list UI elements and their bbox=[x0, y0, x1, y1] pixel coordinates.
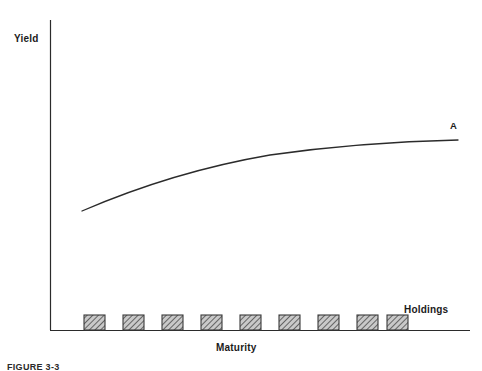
holdings-bar bbox=[279, 315, 300, 330]
figure-container: Yield Maturity Holdings A FIGURE 3-3 bbox=[0, 0, 482, 371]
curve-a-label: A bbox=[450, 120, 457, 131]
holdings-bar bbox=[357, 315, 378, 330]
holdings-bar bbox=[387, 315, 408, 330]
holdings-bar bbox=[240, 315, 261, 330]
x-axis-title: Maturity bbox=[216, 342, 257, 353]
holdings-series-label: Holdings bbox=[404, 304, 448, 315]
y-axis-title: Yield bbox=[14, 33, 39, 44]
holdings-bars bbox=[84, 315, 408, 330]
holdings-bar bbox=[201, 315, 222, 330]
yield-curve-chart bbox=[0, 0, 482, 371]
figure-caption: FIGURE 3-3 bbox=[7, 362, 60, 371]
holdings-bar bbox=[123, 315, 144, 330]
holdings-bar bbox=[84, 315, 105, 330]
holdings-bar bbox=[318, 315, 339, 330]
holdings-bar bbox=[162, 315, 183, 330]
